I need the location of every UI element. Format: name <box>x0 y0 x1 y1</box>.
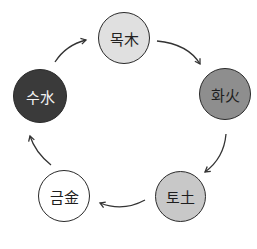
node-metal-label: 금金 <box>50 186 79 207</box>
node-water: 수水 <box>13 69 67 123</box>
node-fire: 화火 <box>199 68 251 120</box>
node-fire-label: 화火 <box>211 84 240 105</box>
node-earth: 토土 <box>155 171 206 222</box>
arrow-wood-to-fire <box>157 41 200 64</box>
node-wood: 목木 <box>98 12 150 64</box>
node-wood-label: 목木 <box>110 28 139 49</box>
node-earth-label: 토土 <box>166 186 195 207</box>
arrow-fire-to-earth <box>205 134 226 172</box>
five-elements-cycle-diagram: 목木 화火 토土 금金 수水 <box>0 0 257 249</box>
arrow-earth-to-metal <box>100 200 145 207</box>
node-metal: 금金 <box>38 170 90 222</box>
arrow-water-to-wood <box>55 40 86 62</box>
node-water-label: 수水 <box>26 86 55 107</box>
arrow-metal-to-water <box>30 136 51 165</box>
